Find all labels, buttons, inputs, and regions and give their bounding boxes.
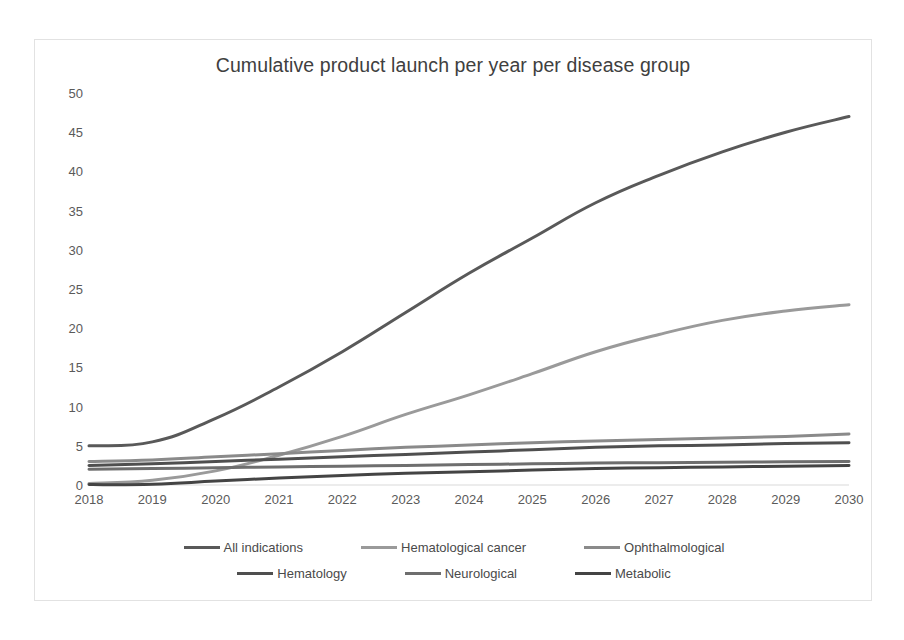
series-line [89,434,849,461]
legend-item[interactable]: Metabolic [575,566,671,581]
legend-item[interactable]: Neurological [405,566,517,581]
legend-swatch-icon [584,546,620,549]
x-tick-label: 2030 [835,492,864,507]
x-tick-label: 2019 [138,492,167,507]
legend-item[interactable]: Ophthalmological [584,540,724,555]
y-tick-label: 50 [69,86,83,101]
legend-label: Hematological cancer [401,540,526,555]
legend-row: All indicationsHematological cancerOphth… [35,540,873,555]
y-tick-label: 25 [69,282,83,297]
chart-frame: Cumulative product launch per year per d… [34,39,872,601]
y-tick-label: 35 [69,203,83,218]
x-tick-label: 2020 [201,492,230,507]
legend-label: All indications [224,540,304,555]
legend-row: HematologyNeurologicalMetabolic [35,566,873,581]
legend-swatch-icon [575,572,611,575]
legend-label: Ophthalmological [624,540,724,555]
chart-title: Cumulative product launch per year per d… [35,54,871,77]
x-tick-label: 2026 [581,492,610,507]
x-axis: 2018201920202021202220232024202520262027… [89,492,849,512]
x-tick-label: 2028 [708,492,737,507]
y-tick-label: 30 [69,242,83,257]
x-tick-label: 2021 [265,492,294,507]
x-tick-label: 2024 [455,492,484,507]
x-tick-label: 2018 [75,492,104,507]
legend-label: Hematology [277,566,346,581]
x-tick-label: 2025 [518,492,547,507]
x-tick-label: 2027 [645,492,674,507]
legend-swatch-icon [361,546,397,549]
y-tick-label: 10 [69,399,83,414]
legend-item[interactable]: All indications [184,540,304,555]
y-tick-label: 0 [76,478,83,493]
legend-label: Metabolic [615,566,671,581]
y-tick-label: 40 [69,164,83,179]
x-tick-label: 2022 [328,492,357,507]
x-tick-label: 2029 [771,492,800,507]
legend-swatch-icon [184,546,220,549]
legend-item[interactable]: Hematology [237,566,346,581]
y-tick-label: 15 [69,360,83,375]
plot-area [89,93,849,485]
legend-swatch-icon [405,572,441,575]
y-tick-label: 20 [69,321,83,336]
legend-item[interactable]: Hematological cancer [361,540,526,555]
legend-swatch-icon [237,572,273,575]
legend-label: Neurological [445,566,517,581]
plot-lines [89,93,849,485]
chart-legend: All indicationsHematological cancerOphth… [35,540,873,592]
y-tick-label: 45 [69,125,83,140]
y-axis: 05101520253035404550 [45,93,83,485]
x-tick-label: 2023 [391,492,420,507]
y-tick-label: 5 [76,438,83,453]
